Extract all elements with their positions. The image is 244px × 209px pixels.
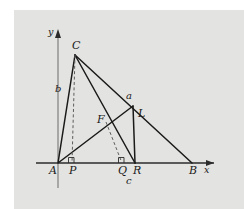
- side-label-a: a: [126, 91, 132, 101]
- y-axis-label: y: [48, 27, 53, 37]
- point-label-L: L: [138, 108, 145, 119]
- point-label-C: C: [72, 40, 80, 51]
- point-label-P: P: [69, 165, 76, 176]
- segments-group: [58, 55, 192, 163]
- point-label-R: R: [133, 165, 141, 176]
- right-angle-P: [69, 158, 75, 164]
- side-label-b: b: [55, 84, 61, 94]
- figure-page: A P Q R B C F L b a c y x: [0, 0, 244, 209]
- segment-LR: [133, 106, 135, 163]
- geometry-figure: [0, 0, 244, 209]
- y-axis-arrowhead: [55, 29, 61, 38]
- right-angle-marks-group: [69, 158, 125, 164]
- x-axis-label: x: [204, 165, 209, 175]
- altitude-FQ: [106, 122, 122, 163]
- right-angle-Q: [119, 158, 125, 164]
- point-label-A: A: [49, 165, 57, 176]
- side-label-c: c: [126, 176, 132, 186]
- segment-AL: [58, 106, 133, 163]
- point-label-F: F: [97, 114, 105, 125]
- segment-CR: [75, 55, 135, 163]
- point-label-B: B: [189, 165, 197, 176]
